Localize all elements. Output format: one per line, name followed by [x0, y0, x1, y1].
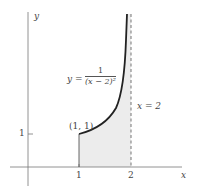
asymptote-label: x = 2 — [137, 102, 161, 111]
equation-denominator: (x − 2)² — [85, 77, 116, 86]
x-axis-label: x — [181, 171, 186, 180]
improper-integral-diagram: y x 1 1 2 (1, 1) y = 1 (x − 2)² x = 2 — [0, 0, 198, 192]
equation-lhs: y = — [67, 75, 83, 84]
x-tick-label-2: 2 — [128, 171, 134, 180]
shaded-region — [79, 14, 131, 167]
y-tick-label-1: 1 — [19, 129, 25, 138]
equation-fraction: 1 (x − 2)² — [85, 67, 116, 86]
equation-numerator: 1 — [85, 67, 116, 77]
x-tick-label-1: 1 — [76, 171, 82, 180]
point-label: (1, 1) — [69, 122, 93, 131]
y-axis-label: y — [34, 12, 39, 21]
plot-canvas — [0, 0, 198, 192]
